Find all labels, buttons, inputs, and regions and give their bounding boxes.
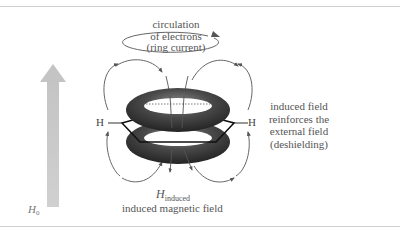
ring-label-line-3: (ring current) bbox=[128, 42, 224, 54]
deshielding-label: induced field reinforces the external fi… bbox=[262, 100, 336, 150]
hydrogen-right-label: H bbox=[248, 117, 256, 129]
ring-current-label: circulation of electrons (ring current) bbox=[128, 19, 224, 54]
h0-symbol: H bbox=[28, 203, 36, 215]
external-field-label: H0 bbox=[28, 204, 39, 220]
deshielding-line-3: external field bbox=[262, 125, 336, 138]
ring-label-line-1: circulation bbox=[128, 19, 224, 31]
hydrogen-left-label: H bbox=[96, 117, 104, 129]
external-field-arrow bbox=[40, 64, 66, 207]
deshielding-line-2: reinforces the bbox=[262, 113, 336, 126]
deshielding-line-4: (deshielding) bbox=[262, 138, 336, 151]
top-torus bbox=[126, 88, 230, 132]
deshielding-line-1: induced field bbox=[262, 100, 336, 113]
h0-subscript: 0 bbox=[36, 209, 40, 217]
induced-field-label: induced magnetic field bbox=[122, 203, 223, 215]
h-induced-symbol: H bbox=[156, 187, 165, 201]
